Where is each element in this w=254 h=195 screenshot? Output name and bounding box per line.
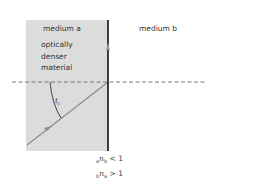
equation-a-n-b: anb < 1	[96, 154, 123, 163]
diagram-graphics	[0, 0, 254, 195]
medium-b-label: medium b	[139, 24, 177, 33]
equation-b-n-a: bna > 1	[96, 169, 123, 178]
medium-a-desc-line1: optically	[41, 40, 73, 49]
critical-angle-label: ic	[55, 96, 60, 105]
medium-a-desc-line2: denser	[41, 52, 67, 61]
medium-a-desc-line3: material	[41, 63, 72, 72]
medium-a-label: medium a	[43, 24, 81, 33]
critical-angle-diagram: medium a optically denser material mediu…	[0, 0, 254, 195]
